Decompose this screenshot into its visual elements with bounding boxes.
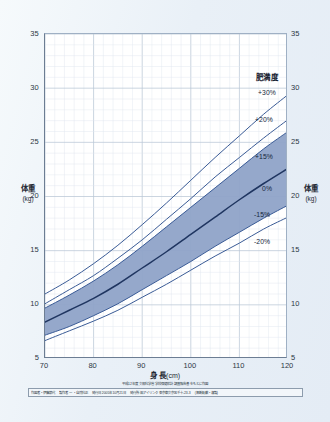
y-axis-unit-left: (kg) [20, 195, 36, 203]
footer: 平成12年度 文部科学省 学校保健統計調査報告書 をもとに作図 作図者・伊藤節代… [0, 378, 330, 422]
growth-chart: 35 30 25 20 15 10 5 35 30 25 20 15 10 5 … [0, 0, 330, 378]
curve-label-plus20: +20% [255, 116, 273, 123]
credit-item: 作図者・伊藤節代 [31, 390, 55, 395]
credit-item: 発行所 ㈱アイリンク 東京都文京区千十-23-3 [130, 390, 191, 395]
curve-label-plus15: +15% [255, 153, 273, 160]
y-axis-unit-right: (kg) [303, 195, 319, 203]
footer-note: 平成12年度 文部科学省 学校保健統計調査報告書 をもとに作図 [0, 381, 330, 386]
y-tick-right-25: 25 [291, 137, 317, 146]
curve-label-minus20: -20% [254, 238, 270, 245]
y-tick-left-35: 35 [13, 29, 39, 38]
y-axis-title-left-text: 体重 [20, 184, 36, 193]
y-tick-right-5: 5 [291, 353, 317, 362]
y-tick-right-30: 30 [291, 83, 317, 92]
y-tick-right-10: 10 [291, 299, 317, 308]
legend-title: 肥満度 [255, 71, 279, 82]
y-axis-title-right-text: 体重 [303, 184, 319, 193]
y-tick-left-15: 15 [13, 245, 39, 254]
credit-item: 発行日 2005年10月21日 [92, 390, 126, 395]
y-axis-title-right: 体重 (kg) [303, 184, 319, 204]
chart-page: 35 30 25 20 15 10 5 35 30 25 20 15 10 5 … [0, 0, 330, 422]
y-tick-left-30: 30 [13, 83, 39, 92]
credit-item: (無断転載・複製) [195, 390, 218, 395]
y-tick-left-10: 10 [13, 299, 39, 308]
credit-item: 製作者 一 ・自然科正 [59, 390, 88, 395]
y-tick-left-25: 25 [13, 137, 39, 146]
y-axis-title-left: 体重 (kg) [20, 184, 36, 204]
curve-label-zero: 0% [262, 185, 272, 192]
curves-layer [45, 34, 287, 358]
y-tick-right-35: 35 [291, 29, 317, 38]
y-tick-right-15: 15 [291, 245, 317, 254]
plot-area [44, 33, 287, 358]
y-tick-left-5: 5 [13, 353, 39, 362]
curve-label-plus30: +30% [258, 89, 276, 96]
curve-label-minus15: -15% [254, 211, 270, 218]
credit-bar: 作図者・伊藤節代 製作者 一 ・自然科正 発行日 2005年10月21日 発行所… [28, 388, 303, 397]
